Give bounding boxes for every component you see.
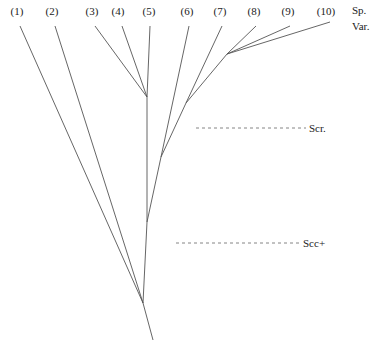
leaf-label-9: (9) <box>282 5 295 18</box>
phylogeny-diagram: Scr.Scc+ (1)(2)(3)(4)(5)(6)(7)(8)(9)(10)… <box>0 0 380 354</box>
tree-branches <box>20 22 330 340</box>
tree-branch <box>186 54 227 103</box>
tree-branch <box>122 26 147 97</box>
leaf-label-7: (7) <box>214 5 227 18</box>
header-labels: Sp. Var. <box>352 4 370 32</box>
leaf-label-8: (8) <box>248 5 261 18</box>
leaf-label-6: (6) <box>181 5 194 18</box>
tree-branch <box>161 26 189 157</box>
leaf-label-2: (2) <box>46 5 59 18</box>
header-var: Var. <box>352 20 370 32</box>
leaf-label-1: (1) <box>11 5 24 18</box>
tree-branch <box>147 26 150 97</box>
tree-branch <box>161 103 186 157</box>
leaf-label-3: (3) <box>86 5 99 18</box>
leaf-label-4: (4) <box>112 5 125 18</box>
diagram-svg: Scr.Scc+ (1)(2)(3)(4)(5)(6)(7)(8)(9)(10)… <box>0 0 380 354</box>
tree-branch <box>143 303 153 340</box>
leaf-labels: (1)(2)(3)(4)(5)(6)(7)(8)(9)(10) <box>11 5 336 18</box>
header-sp: Sp. <box>352 4 367 16</box>
tree-branch <box>55 26 143 303</box>
tree-branch <box>227 22 330 54</box>
tree-branch <box>95 26 147 97</box>
level-markers: Scr.Scc+ <box>176 122 326 249</box>
tree-branch <box>143 222 147 303</box>
leaf-label-10: (10) <box>317 5 336 18</box>
tree-branch <box>227 26 290 54</box>
tree-branch <box>20 26 143 303</box>
level-label-scr: Scr. <box>309 122 326 134</box>
tree-branch <box>147 157 161 222</box>
tree-branch <box>186 26 222 103</box>
level-label-scc: Scc+ <box>303 237 325 249</box>
leaf-label-5: (5) <box>143 5 156 18</box>
